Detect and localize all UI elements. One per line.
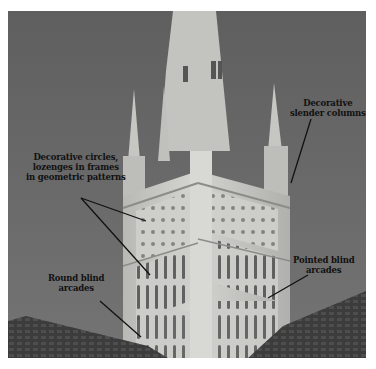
label-pointed-blind-arcades: Pointed blind arcades <box>293 255 354 275</box>
label-line: slender columns <box>290 108 366 118</box>
label-decorative-circles: Decorative circles, lozenges in frames i… <box>26 152 126 182</box>
label-line: arcades <box>48 283 104 293</box>
label-line: lozenges in frames <box>26 162 126 172</box>
label-line: arcades <box>293 265 354 275</box>
label-line: Round blind <box>48 273 104 283</box>
cathedral-tower-photo <box>8 11 366 358</box>
label-line: Decorative <box>290 98 366 108</box>
label-slender-columns: Decorative slender columns <box>290 98 366 118</box>
label-round-blind-arcades: Round blind arcades <box>48 273 104 293</box>
tower-illustration <box>8 11 366 358</box>
label-line: Decorative circles, <box>26 152 126 162</box>
label-line: Pointed blind <box>293 255 354 265</box>
label-line: in geometric patterns <box>26 172 126 182</box>
